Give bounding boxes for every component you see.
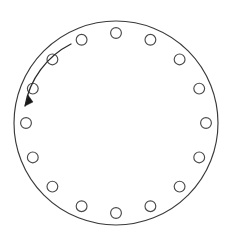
- bolt-hole: [174, 181, 185, 192]
- bolt-hole: [76, 201, 87, 212]
- bolt-hole: [27, 152, 38, 163]
- bolt-hole: [111, 28, 122, 39]
- bolt-hole: [76, 34, 87, 45]
- bolt-hole: [145, 34, 156, 45]
- bolt-hole: [21, 118, 32, 129]
- outer-circle-group: [14, 21, 218, 225]
- rotation-arrow-group: [25, 44, 71, 106]
- bolt-circle-diagram: [0, 0, 231, 240]
- bolt-hole: [174, 54, 185, 65]
- bolt-hole: [194, 152, 205, 163]
- bolt-hole: [111, 208, 122, 219]
- rotation-arc: [25, 44, 71, 106]
- bolt-hole-ring: [21, 28, 212, 219]
- diagram-figure: [0, 0, 231, 240]
- outer-boundary-circle: [14, 21, 218, 225]
- bolt-hole: [194, 83, 205, 94]
- bolt-hole: [145, 201, 156, 212]
- bolt-hole: [47, 181, 58, 192]
- bolt-hole: [201, 118, 212, 129]
